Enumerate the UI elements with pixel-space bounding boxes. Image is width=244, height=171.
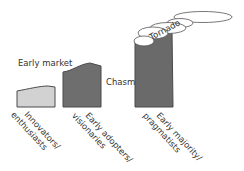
early-adopters-block xyxy=(63,63,101,107)
chasm-label: Chasm xyxy=(106,77,135,87)
innovators-block xyxy=(17,86,55,107)
tornado-icon xyxy=(134,12,232,47)
early-market-label: Early market xyxy=(18,58,72,68)
